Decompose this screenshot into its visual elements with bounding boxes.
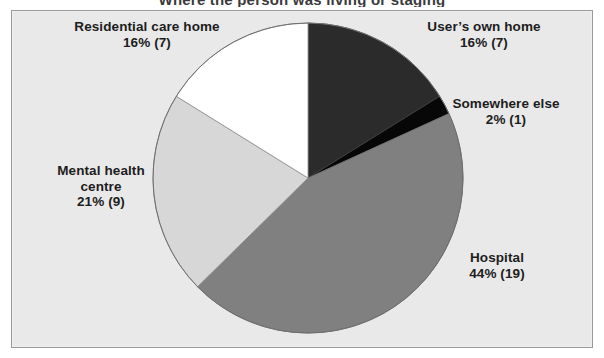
slice-label-somewhere-else: Somewhere else 2% (1) [424,96,588,127]
pie-slices [153,23,463,333]
slice-label-mental-health-centre: Mental health centre 21% (9) [22,163,180,210]
slice-label-hospital: Hospital 44% (19) [420,250,574,281]
slice-label-users-own-home: User’s own home 16% (7) [392,19,576,50]
pie-chart-figure: Where the person was living or staging R… [0,0,604,358]
slice-label-residential-care-home: Residential care home 16% (7) [41,19,253,50]
